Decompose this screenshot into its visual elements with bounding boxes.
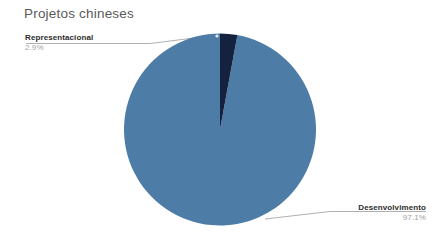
pie-chart-figure: Projetos chineses Representacional 2.9% … bbox=[0, 0, 435, 240]
callout-desenvolvimento: Desenvolvimento 97.1% bbox=[358, 203, 426, 223]
callout-representacional-label: Representacional bbox=[25, 33, 93, 43]
callout-desenvolvimento-label: Desenvolvimento bbox=[358, 203, 426, 213]
callout-representacional-percent: 2.9% bbox=[25, 43, 93, 53]
callout-representacional: Representacional 2.9% bbox=[25, 33, 93, 53]
wedge-highlight-dot bbox=[215, 34, 218, 37]
callout-desenvolvimento-percent: 97.1% bbox=[358, 213, 426, 223]
